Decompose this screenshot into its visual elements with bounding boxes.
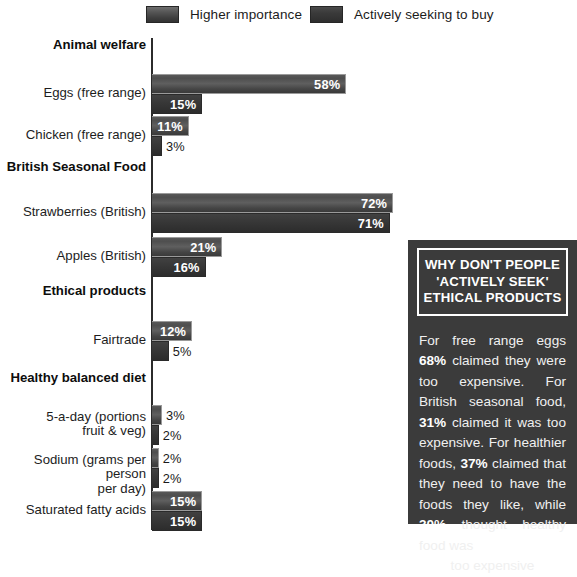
category-label: Animal welfare: [0, 38, 146, 53]
bar-act[interactable]: 71%: [152, 213, 390, 233]
callout-panel: WHY DON'T PEOPLE 'ACTIVELY SEEK' ETHICAL…: [408, 240, 577, 524]
callout-body-last-line: too expensive: [419, 556, 566, 577]
bar-hi[interactable]: 58%: [152, 74, 346, 94]
bar-act[interactable]: 3%: [152, 136, 162, 156]
data-row: Strawberries (British)72%71%: [0, 193, 577, 233]
series-row-label: Strawberries (British): [0, 205, 146, 220]
legend-item-actively-seeking: Actively seeking to buy: [310, 3, 494, 25]
bar-value-label: 21%: [190, 240, 221, 255]
bar-group: 3%2%: [152, 405, 162, 445]
bar-act[interactable]: 2%: [152, 425, 159, 445]
legend-swatch-actively-seeking: [310, 6, 343, 23]
bar-group: 21%16%: [152, 237, 222, 277]
bar-group: 15%15%: [152, 491, 202, 531]
bar-hi[interactable]: 11%: [152, 116, 189, 136]
bar-value-label: 72%: [361, 196, 392, 211]
bar-act[interactable]: 5%: [152, 341, 169, 361]
legend-label-higher-importance: Higher importance: [190, 7, 302, 22]
bar-group: 2%2%: [152, 448, 159, 488]
bar-group: 72%71%: [152, 193, 393, 233]
category-header-row: Animal welfare: [0, 38, 577, 54]
category-label: Ethical products: [0, 284, 146, 299]
callout-body-text: For free range eggs 68% claimed they wer…: [419, 333, 566, 553]
bar-value-label: 11%: [157, 119, 188, 134]
callout-panel-heading: WHY DON'T PEOPLE 'ACTIVELY SEEK' ETHICAL…: [417, 248, 568, 316]
legend-item-higher-importance: Higher importance: [146, 3, 302, 25]
callout-heading-line-1: WHY DON'T PEOPLE: [423, 257, 562, 274]
bar-value-label: 3%: [161, 139, 185, 154]
bar-value-label: 15%: [170, 97, 201, 112]
legend-label-actively-seeking: Actively seeking to buy: [354, 7, 494, 22]
bar-hi[interactable]: 3%: [152, 405, 162, 425]
bar-hi[interactable]: 2%: [152, 448, 159, 468]
callout-panel-body: For free range eggs 68% claimed they wer…: [417, 331, 568, 577]
series-row-label: Chicken (free range): [0, 128, 146, 143]
data-row: Eggs (free range)58%15%: [0, 74, 577, 114]
bar-hi[interactable]: 21%: [152, 237, 222, 257]
bar-value-label: 16%: [173, 260, 204, 275]
category-label: Healthy balanced diet: [0, 371, 146, 386]
bar-group: 12%5%: [152, 321, 192, 361]
bar-value-label: 71%: [358, 216, 389, 231]
bar-value-label: 2%: [158, 428, 182, 443]
bar-value-label: 2%: [158, 451, 182, 466]
category-label: British Seasonal Food: [0, 160, 146, 175]
bar-act[interactable]: 15%: [152, 94, 202, 114]
bar-hi[interactable]: 72%: [152, 193, 393, 213]
bar-act[interactable]: 16%: [152, 257, 206, 277]
bar-value-label: 3%: [161, 408, 185, 423]
category-header-row: British Seasonal Food: [0, 160, 577, 176]
legend-swatch-higher-importance: [146, 6, 179, 23]
series-row-label: 5-a-day (portions fruit & veg): [0, 410, 146, 439]
callout-heading-line-2: 'ACTIVELY SEEK': [423, 274, 562, 291]
chart-legend: Higher importance Actively seeking to bu…: [0, 3, 577, 25]
bar-value-label: 5%: [168, 344, 192, 359]
bar-group: 58%15%: [152, 74, 346, 114]
series-row-label: Eggs (free range): [0, 86, 146, 101]
bar-value-label: 12%: [160, 324, 191, 339]
bar-value-label: 58%: [314, 77, 345, 92]
bar-value-label: 15%: [170, 514, 201, 529]
bar-act[interactable]: 15%: [152, 511, 202, 531]
series-row-label: Saturated fatty acids: [0, 503, 146, 518]
bar-group: 11%3%: [152, 116, 189, 156]
bar-value-label: 15%: [170, 494, 201, 509]
bar-value-label: 2%: [158, 471, 182, 486]
series-row-label: Fairtrade: [0, 333, 146, 348]
callout-heading-line-3: ETHICAL PRODUCTS: [423, 290, 562, 307]
bar-hi[interactable]: 12%: [152, 321, 192, 341]
series-row-label: Apples (British): [0, 249, 146, 264]
data-row: Chicken (free range)11%3%: [0, 116, 577, 156]
bar-act[interactable]: 2%: [152, 468, 159, 488]
bar-hi[interactable]: 15%: [152, 491, 202, 511]
series-row-label: Sodium (grams per person per day): [0, 453, 146, 497]
